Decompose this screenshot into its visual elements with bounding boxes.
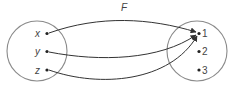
domain-point-y xyxy=(45,50,48,53)
function-diagram: F x y z 1 2 3 xyxy=(0,0,236,94)
mapping-arrow-y-to-1 xyxy=(49,35,196,58)
codomain-point-1 xyxy=(197,32,200,35)
function-label: F xyxy=(121,2,128,13)
codomain-element-3: 3 xyxy=(202,65,208,76)
domain-element-z: z xyxy=(34,65,40,76)
domain-point-x xyxy=(45,32,48,35)
codomain-set-circle xyxy=(167,21,227,81)
domain-element-x: x xyxy=(34,28,41,39)
domain-point-z xyxy=(45,68,48,71)
codomain-point-3 xyxy=(197,68,200,71)
codomain-point-2 xyxy=(197,50,200,53)
mapping-arrow-z-to-1 xyxy=(49,36,197,79)
codomain-element-2: 2 xyxy=(202,46,208,57)
domain-element-y: y xyxy=(34,46,41,57)
codomain-element-1: 1 xyxy=(202,28,208,39)
